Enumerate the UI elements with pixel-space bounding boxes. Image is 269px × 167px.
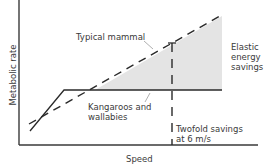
typical-mammal-label: Typical mammal (76, 32, 145, 42)
y-axis-label: Metabolic rate (8, 40, 18, 110)
elastic-savings-label: Elastic energy savings (231, 42, 263, 72)
kangaroo-leader (145, 93, 150, 102)
twofold-savings-label: Twofold savings at 6 m/s (176, 124, 243, 144)
twofold-label-line1: Twofold savings (176, 124, 243, 134)
typical-mammal-text: Typical mammal (76, 32, 145, 42)
x-axis-label: Speed (126, 154, 153, 164)
typical-mammal-leader (144, 41, 153, 49)
elastic-label-line2: energy (231, 52, 263, 62)
kangaroo-label-line1: Kangaroos and (88, 102, 151, 112)
elastic-label-line3: savings (231, 62, 263, 72)
twofold-label-line2: at 6 m/s (176, 134, 243, 144)
elastic-savings-area (95, 16, 222, 90)
kangaroo-label: Kangaroos and wallabies (88, 102, 151, 122)
kangaroo-label-line2: wallabies (88, 112, 151, 122)
elastic-label-line1: Elastic (231, 42, 263, 52)
